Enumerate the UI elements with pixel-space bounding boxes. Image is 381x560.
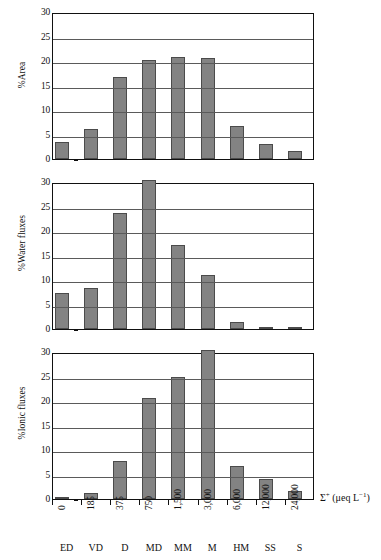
x-tick-mark	[168, 500, 169, 505]
bar-M	[201, 58, 215, 159]
x-tick-label: 0	[57, 505, 67, 510]
gridline	[53, 137, 313, 138]
y-tick-label: 15	[30, 422, 50, 432]
panel-ionic-fluxes: %Ionic fluxes 051015202530 01853757501,5…	[0, 346, 381, 560]
category-label-M: M	[198, 542, 227, 553]
gridline	[53, 233, 313, 234]
y-tick-label: 25	[30, 373, 50, 383]
bar-D	[113, 77, 127, 159]
y-tick-label: 0	[30, 155, 50, 165]
y-tick-label: 15	[30, 82, 50, 92]
x-tick-mark	[81, 500, 82, 505]
y-tick-labels-ionic-fluxes: 051015202530	[22, 353, 50, 500]
y-tick-label: 5	[30, 471, 50, 481]
y-tick-label: 25	[30, 33, 50, 43]
bar-SS	[259, 327, 273, 329]
bar-VD	[84, 288, 98, 329]
category-label-S: S	[285, 542, 314, 553]
x-tick-label: 6,000	[232, 489, 242, 510]
gridline	[53, 63, 313, 64]
gridline	[53, 428, 313, 429]
x-axis-units-close: )	[366, 492, 369, 503]
y-tick-label: 10	[30, 446, 50, 456]
panel-area: %Area 051015202530	[0, 0, 381, 176]
bar-MM	[171, 377, 185, 500]
y-tick-label: 0	[30, 325, 50, 335]
gridline	[53, 88, 313, 89]
x-tick-mark	[256, 500, 257, 505]
bar-D	[113, 213, 127, 329]
figure-three-panel-bar-chart: %Area 051015202530 %Water fluxes 0510152…	[0, 0, 381, 560]
y-tick-label: 30	[30, 348, 50, 358]
category-label-SS: SS	[256, 542, 285, 553]
x-tick-mark	[198, 500, 199, 505]
bar-HM	[230, 126, 244, 159]
x-tick-label: 1,500	[173, 489, 183, 510]
gridline	[53, 39, 313, 40]
y-tick-label: 20	[30, 227, 50, 237]
y-tick-label: 30	[30, 178, 50, 188]
category-label-HM: HM	[227, 542, 256, 553]
x-axis-sigma-superscript: +	[326, 491, 330, 499]
y-tick-label: 5	[30, 301, 50, 311]
y-tick-labels-water-fluxes: 051015202530	[22, 183, 50, 330]
category-label-MD: MD	[139, 542, 168, 553]
bar-ED	[55, 293, 69, 329]
gridline	[53, 452, 313, 453]
bar-MM	[171, 57, 185, 159]
gridline	[53, 307, 313, 308]
y-tick-label: 10	[30, 276, 50, 286]
x-tick-label: 375	[115, 496, 125, 510]
category-labels-row: EDVDDMDMMMHMSSS	[52, 542, 314, 556]
gridline	[53, 112, 313, 113]
plot-area-water-fluxes	[52, 183, 314, 330]
category-label-ED: ED	[52, 542, 81, 553]
y-tick-mark	[74, 160, 78, 161]
gridline	[53, 282, 313, 283]
x-axis-units-open: (μeq L	[332, 492, 359, 503]
y-tick-label: 20	[30, 397, 50, 407]
bar-S	[288, 327, 302, 329]
bar-D	[113, 461, 127, 499]
x-tick-mark	[227, 500, 228, 505]
y-tick-mark	[74, 330, 78, 331]
x-tick-mark	[139, 500, 140, 505]
x-tick-label: 12,000	[261, 484, 271, 510]
y-tick-label: 25	[30, 203, 50, 213]
y-tick-label: 30	[30, 8, 50, 18]
gridline	[53, 403, 313, 404]
x-tick-mark	[285, 500, 286, 505]
bar-MD	[142, 398, 156, 499]
bar-MD	[142, 60, 156, 159]
x-tick-mark	[110, 500, 111, 505]
plot-area-area	[52, 13, 314, 160]
bar-HM	[230, 322, 244, 329]
gridline	[53, 258, 313, 259]
bar-ED	[55, 497, 69, 499]
bar-SS	[259, 144, 273, 159]
y-tick-label: 0	[30, 495, 50, 505]
plot-area-ionic-fluxes	[52, 353, 314, 500]
gridline	[53, 209, 313, 210]
x-tick-mark	[52, 500, 53, 505]
y-tick-labels-area: 051015202530	[22, 13, 50, 160]
x-axis-ticks: 01853757501,5003,0006,00012,00024,000	[52, 500, 314, 510]
y-tick-label: 15	[30, 252, 50, 262]
bar-VD	[84, 129, 98, 159]
bar-S	[288, 151, 302, 159]
y-tick-label: 10	[30, 106, 50, 116]
category-label-D: D	[110, 542, 139, 553]
panel-water-fluxes: %Water fluxes 051015202530	[0, 176, 381, 346]
bar-M	[201, 275, 215, 329]
category-label-VD: VD	[81, 542, 110, 553]
x-tick-label: 185	[86, 496, 96, 510]
x-axis-title: Σ+ (μeq L−1)	[320, 491, 370, 503]
y-tick-label: 5	[30, 131, 50, 141]
category-label-MM: MM	[168, 542, 197, 553]
gridline	[53, 477, 313, 478]
x-tick-label: 750	[144, 496, 154, 510]
y-tick-label: 20	[30, 57, 50, 67]
x-tick-label: 3,000	[203, 489, 213, 510]
gridline	[53, 379, 313, 380]
x-tick-label: 24,000	[290, 484, 300, 510]
